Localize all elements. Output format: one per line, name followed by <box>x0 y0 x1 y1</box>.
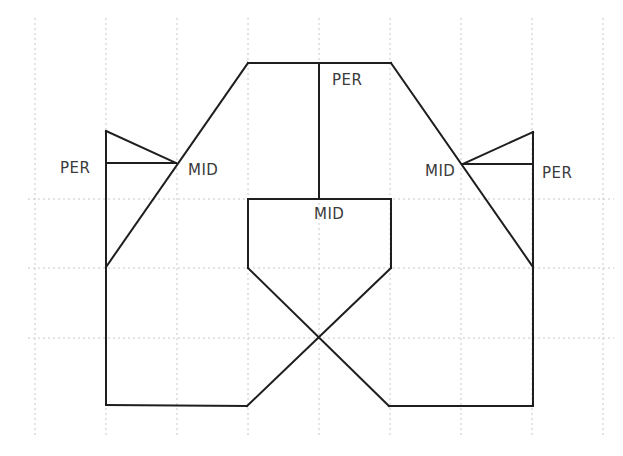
label-mid-right: MID <box>425 162 455 180</box>
label-mid-center: MID <box>314 205 344 223</box>
label-mid-left: MID <box>188 161 218 179</box>
label-per-left: PER <box>60 159 90 177</box>
label-per-right: PER <box>542 164 572 182</box>
bottom-left-edge <box>106 405 247 406</box>
background <box>0 0 623 456</box>
cad-drawing-canvas: PER MID PER MID MID PER <box>0 0 623 456</box>
label-per-top: PER <box>332 71 362 89</box>
